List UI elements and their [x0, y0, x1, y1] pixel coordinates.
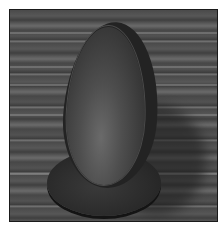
photograph	[9, 9, 218, 222]
